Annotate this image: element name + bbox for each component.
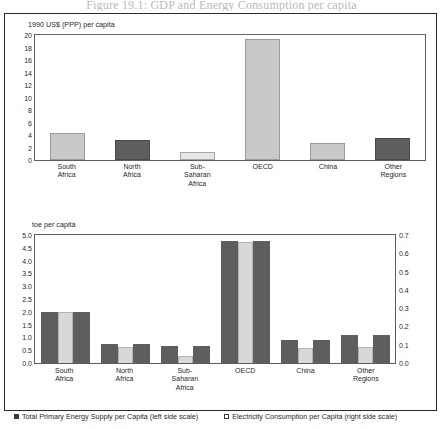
chart2-x-label: NorthAfrica <box>94 367 154 392</box>
chart1-x-label: NorthAfrica <box>99 163 164 188</box>
chart2-x-axis-labels: SouthAfricaNorthAfricaSub-SaharanAfricaO… <box>34 367 396 392</box>
chart2-y-tick-left: 1.5 <box>22 321 32 328</box>
chart1-y-tick: 18 <box>24 44 32 51</box>
chart2-y-tick-left: 3.5 <box>22 270 32 277</box>
chart2-bar-tpes <box>161 346 178 363</box>
chart1-y-tick: 0 <box>28 157 32 164</box>
chart2-y-tick-left: 0.5 <box>22 347 32 354</box>
chart2-bar-electricity <box>298 348 313 363</box>
chart1-x-label: SouthAfrica <box>34 163 99 188</box>
chart-panel-energy: toe per capita 5.04.54.03.53.02.52.01.51… <box>4 215 437 411</box>
chart2-x-label: Sub-SaharanAfrica <box>155 367 215 392</box>
chart2-bar-group <box>95 235 155 363</box>
chart1-x-label: OtherRegions <box>361 163 426 188</box>
chart1-x-axis-labels: SouthAfricaNorthAfricaSub-SaharanAfricaO… <box>34 163 426 188</box>
chart2-x-label: OECD <box>215 367 275 392</box>
chart2-y-tick-left: 5.0 <box>22 232 32 239</box>
chart2-y-tick-left: 1.0 <box>22 334 32 341</box>
chart2-bar-electricity <box>358 347 373 363</box>
chart2-y-tick-left: 2.5 <box>22 296 32 303</box>
chart2-y-tick-right: 0.3 <box>399 305 409 312</box>
chart1-x-label: China <box>295 163 360 188</box>
chart2-y-tick-left: 4.0 <box>22 257 32 264</box>
chart2-bar-group <box>155 235 215 363</box>
chart2-y-tick-right: 0.1 <box>399 341 409 348</box>
chart2-bar-electricity <box>118 347 133 363</box>
chart2-bar-group <box>275 235 335 363</box>
chart1-y-tick: 8 <box>28 107 32 114</box>
chart2-y-tick-right: 0.2 <box>399 323 409 330</box>
chart1-bar <box>310 143 345 161</box>
chart2-y-tick-right: 0.5 <box>399 268 409 275</box>
chart1-y-tick: 10 <box>24 94 32 101</box>
chart2-bar-tpes <box>341 335 358 363</box>
legend-swatch-open-icon <box>224 414 229 419</box>
chart2-y-tick-right: 0.0 <box>399 360 409 367</box>
legend-label-electricity: Electricity Consumption per Capita (righ… <box>232 412 397 421</box>
chart2-y-tick-right: 0.6 <box>399 250 409 257</box>
chart1-y-tick: 4 <box>28 132 32 139</box>
chart2-bar-tpes-right-half <box>193 346 210 363</box>
chart1-x-label: Sub-SaharanAfrica <box>165 163 230 188</box>
chart2-bar-tpes <box>101 344 118 363</box>
chart2-x-label: SouthAfrica <box>34 367 94 392</box>
chart2-bar-group <box>335 235 395 363</box>
chart2-y-tick-left: 3.0 <box>22 283 32 290</box>
chart2-bar-tpes-right-half <box>313 340 330 363</box>
legend-item-electricity: Electricity Consumption per Capita (righ… <box>224 412 397 421</box>
chart1-y-tick: 14 <box>24 69 32 76</box>
chart2-bars <box>35 235 395 363</box>
chart1-bar-column <box>35 35 100 160</box>
legend-swatch-filled-icon <box>14 414 19 419</box>
chart1-bar-column <box>100 35 165 160</box>
chart1-bars <box>35 35 425 160</box>
chart1-bar <box>245 39 280 160</box>
chart1-y-tick: 6 <box>28 119 32 126</box>
chart1-bar <box>180 152 215 160</box>
chart1-y-tick: 2 <box>28 144 32 151</box>
chart2-bar-tpes <box>41 312 58 363</box>
chart2-y-tick-left: 4.5 <box>22 244 32 251</box>
page-title: Figure 19.1: GDP and Energy Consumption … <box>0 0 443 11</box>
chart2-y-tick-left: 2.0 <box>22 308 32 315</box>
chart2-bar-tpes-right-half <box>253 241 270 363</box>
legend-item-tpes: Total Primary Energy Supply per Capita (… <box>14 412 198 421</box>
chart2-y-tick-right: 0.7 <box>399 232 409 239</box>
chart2-axis-caption: toe per capita <box>32 220 76 229</box>
chart2-bar-electricity <box>238 242 253 363</box>
chart2-bar-tpes <box>281 340 298 363</box>
chart2-bar-electricity <box>178 356 193 363</box>
chart2-y-tick-right: 0.4 <box>399 286 409 293</box>
chart2-plot-area: 5.04.54.03.53.02.52.01.51.00.50.0 0.70.6… <box>34 234 396 364</box>
chart2-bar-electricity <box>58 312 73 363</box>
chart1-bar <box>375 138 410 160</box>
chart1-y-tick: 20 <box>24 32 32 39</box>
chart1-x-label: OECD <box>230 163 295 188</box>
chart1-bar-column <box>360 35 425 160</box>
chart2-bar-tpes-right-half <box>373 335 390 363</box>
chart2-bar-tpes <box>221 241 238 363</box>
chart1-axis-caption: 1990 US$ (PPP) per capita <box>28 20 115 29</box>
chart1-bar <box>115 140 150 160</box>
chart2-bar-tpes-right-half <box>73 312 90 363</box>
chart2-x-label: OtherRegions <box>336 367 396 392</box>
chart-panel-gdp: 1990 US$ (PPP) per capita 20181614121086… <box>4 13 437 203</box>
legend-label-tpes: Total Primary Energy Supply per Capita (… <box>22 412 198 421</box>
chart2-y-tick-left: 0.0 <box>22 360 32 367</box>
chart2-bar-group <box>35 235 95 363</box>
chart1-bar-column <box>165 35 230 160</box>
chart2-x-label: China <box>275 367 335 392</box>
chart1-plot-area: 20181614121086420 <box>34 34 426 161</box>
chart1-y-tick: 12 <box>24 82 32 89</box>
chart1-bar-column <box>230 35 295 160</box>
chart2-bar-tpes-right-half <box>133 344 150 363</box>
chart2-bar-group <box>215 235 275 363</box>
chart-legend: Total Primary Energy Supply per Capita (… <box>14 412 434 421</box>
chart1-bar-column <box>295 35 360 160</box>
chart1-y-tick: 16 <box>24 57 32 64</box>
chart1-bar <box>50 133 85 160</box>
